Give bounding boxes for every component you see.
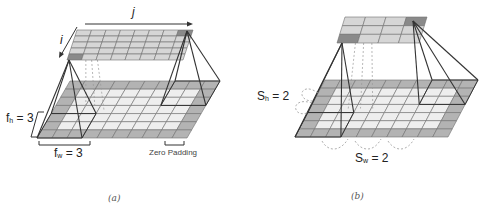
output-grid-b-cell bbox=[340, 26, 363, 35]
output-grid-a-cell bbox=[127, 48, 144, 54]
sw-symbol: S bbox=[355, 151, 363, 165]
stride-w-arc bbox=[355, 139, 381, 149]
zero-padding-bracket bbox=[165, 141, 184, 145]
output-grid-a-cell bbox=[84, 48, 101, 54]
sw-value: = 2 bbox=[368, 151, 388, 165]
stride-w-arc bbox=[388, 139, 414, 149]
output-grid-a-cell bbox=[158, 42, 175, 48]
output-grid-a-cell bbox=[173, 42, 190, 48]
output-grid-a-cell bbox=[115, 42, 132, 48]
sh-symbol: S bbox=[257, 89, 265, 103]
output-grid-a-cell bbox=[129, 42, 146, 48]
output-grid-a-cell bbox=[156, 48, 173, 54]
output-grid-a-cell bbox=[82, 54, 99, 60]
output-grid-b-cell bbox=[381, 26, 404, 35]
output-grid-a-cell bbox=[88, 36, 105, 42]
filter-width-label: fw = 3 bbox=[54, 147, 83, 159]
diagram-canvas bbox=[0, 0, 490, 218]
output-grid-a-cell bbox=[119, 30, 136, 36]
fw-bracket bbox=[39, 141, 90, 145]
output-grid-b-cell bbox=[363, 17, 386, 26]
sh-value: = 2 bbox=[269, 89, 289, 103]
label-i: i bbox=[60, 34, 63, 46]
output-grid-b-cell bbox=[358, 34, 381, 43]
output-grid-a-cell bbox=[75, 30, 92, 36]
zero-padding-label: Zero Padding bbox=[149, 149, 197, 157]
caption-a: (a) bbox=[108, 193, 120, 203]
stride-w-arc bbox=[322, 139, 348, 149]
stride-width-label: Sw = 2 bbox=[355, 152, 388, 164]
convolution-figure: j i fh = 3 fw = 3 Zero Padding (a) Sh = … bbox=[0, 0, 490, 218]
output-grid-a-cell bbox=[133, 30, 150, 36]
arrowhead-icon bbox=[59, 52, 64, 59]
output-grid-a-cell bbox=[90, 30, 107, 36]
output-grid-a-cell bbox=[146, 36, 163, 42]
output-grid-a-cell bbox=[86, 42, 103, 48]
output-grid-a-cell bbox=[96, 54, 113, 60]
output-grid-a-cell bbox=[117, 36, 134, 42]
output-grid-a-cell bbox=[67, 54, 84, 60]
output-grid-a-cell bbox=[69, 48, 86, 54]
output-grid-a-cell bbox=[162, 30, 179, 36]
output-grid-a-cell bbox=[160, 36, 177, 42]
output-grid-a-cell bbox=[71, 42, 88, 48]
label-j: j bbox=[132, 6, 135, 18]
output-grid-a-cell bbox=[131, 36, 148, 42]
output-grid-a-cell bbox=[154, 54, 171, 60]
output-grid-a-cell bbox=[142, 48, 159, 54]
output-grid-a-cell bbox=[102, 36, 119, 42]
output-grid-b-cell bbox=[337, 34, 360, 43]
filter-height-label: fh = 3 bbox=[6, 112, 34, 124]
fh-value: = 3 bbox=[13, 111, 33, 125]
output-grid-b-cell bbox=[378, 34, 401, 43]
stride-height-label: Sh = 2 bbox=[257, 90, 289, 102]
output-grid-a-cell bbox=[104, 30, 121, 36]
arrowhead-icon bbox=[187, 22, 193, 27]
output-grid-b-cell bbox=[342, 17, 365, 26]
fw-value: = 3 bbox=[62, 146, 82, 160]
receptive-field-line bbox=[187, 31, 220, 81]
output-grid-a-cell bbox=[148, 30, 165, 36]
caption-b: (b) bbox=[351, 191, 364, 201]
output-grid-a-cell bbox=[100, 42, 117, 48]
output-grid-a-cell bbox=[111, 54, 128, 60]
output-grid-b-cell bbox=[360, 26, 383, 35]
output-grid-a-cell bbox=[98, 48, 115, 54]
output-grid-a-cell bbox=[177, 30, 194, 36]
output-grid-b-cell bbox=[383, 17, 406, 26]
output-grid-a-cell bbox=[144, 42, 161, 48]
output-grid-a-cell bbox=[125, 54, 142, 60]
output-grid-a-cell bbox=[113, 48, 130, 54]
output-grid-a-cell bbox=[140, 54, 157, 60]
output-grid-a-cell bbox=[73, 36, 90, 42]
